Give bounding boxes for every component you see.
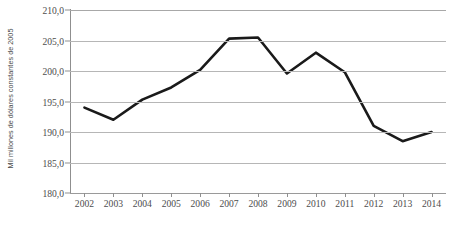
- x-axis-tick-label: 2009: [277, 198, 296, 209]
- y-axis-tick-label: 185,0: [42, 157, 64, 168]
- gridline: [70, 41, 446, 42]
- x-axis-tick-label: 2002: [75, 198, 94, 209]
- x-axis-tick-mark: [316, 193, 317, 197]
- gridline: [70, 71, 446, 72]
- x-axis-tick-label: 2005: [162, 198, 181, 209]
- y-axis-tick-mark: [65, 40, 70, 41]
- x-axis-tick-label: 2011: [335, 198, 354, 209]
- y-axis-tick-label: 205,0: [42, 35, 64, 46]
- y-axis-tick-mark: [65, 101, 70, 102]
- gridline: [70, 10, 446, 11]
- x-axis-tick-label: 2013: [393, 198, 412, 209]
- y-axis-tick-mark: [65, 162, 70, 163]
- x-axis-tick-mark: [229, 193, 230, 197]
- x-axis-tick-label: 2006: [191, 198, 210, 209]
- y-axis-label-text: Mil millones de dólares constantes de 20…: [7, 28, 16, 168]
- x-axis-tick-mark: [432, 193, 433, 197]
- y-axis-tick-label: 190,0: [42, 127, 64, 138]
- gridline: [70, 102, 446, 103]
- x-axis-tick-mark: [258, 193, 259, 197]
- y-axis-tick-mark: [65, 132, 70, 133]
- x-axis-tick-label: 2008: [248, 198, 267, 209]
- x-axis-tick-mark: [403, 193, 404, 197]
- x-axis-tick-mark: [84, 193, 85, 197]
- x-axis-tick-mark: [171, 193, 172, 197]
- y-axis-tick-mark: [65, 10, 70, 11]
- x-axis-tick-label: 2007: [219, 198, 238, 209]
- x-axis-tick-mark: [200, 193, 201, 197]
- x-axis-tick-mark: [142, 193, 143, 197]
- x-axis-tick-label: 2014: [422, 198, 441, 209]
- x-axis-tick-label: 2003: [104, 198, 123, 209]
- x-axis-tick-mark: [374, 193, 375, 197]
- y-axis-tick-mark: [65, 71, 70, 72]
- y-axis-tick-mark: [65, 193, 70, 194]
- y-axis-tick-label: 210,0: [42, 5, 64, 16]
- y-axis-tick-label: 180,0: [42, 188, 64, 199]
- y-axis-tick-label: 195,0: [42, 96, 64, 107]
- y-axis-tick-labels: 210,0205,0200,0195,0190,0185,0180,0: [24, 0, 66, 200]
- chart-figure: Mil millones de dólares constantes de 20…: [0, 0, 454, 229]
- x-axis-tick-mark: [287, 193, 288, 197]
- x-axis-tick-mark: [345, 193, 346, 197]
- gridline: [70, 132, 446, 133]
- x-axis-tick-mark: [113, 193, 114, 197]
- y-axis-tick-label: 200,0: [42, 66, 64, 77]
- y-axis-label: Mil millones de dólares constantes de 20…: [0, 0, 22, 196]
- plot-area: [70, 10, 446, 193]
- x-axis-tick-label: 2012: [364, 198, 383, 209]
- x-axis-tick-label: 2010: [306, 198, 325, 209]
- gridline: [70, 163, 446, 164]
- x-axis-tick-label: 2004: [133, 198, 152, 209]
- x-axis-tick-labels: 2002200320042005200620072008200920102011…: [70, 198, 446, 214]
